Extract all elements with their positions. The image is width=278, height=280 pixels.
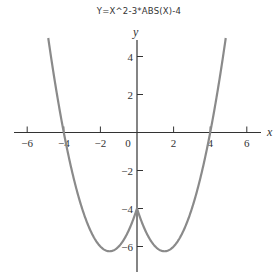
y-tick-label: −4	[121, 203, 133, 215]
x-axis-label: x	[266, 125, 273, 139]
y-tick-label: −2	[121, 165, 133, 177]
x-tick-label: 2	[171, 137, 177, 149]
axes	[14, 40, 261, 272]
y-tick-label: 2	[128, 89, 134, 101]
x-tick-label: 0	[125, 137, 131, 149]
x-tick-label: −2	[95, 137, 107, 149]
y-axis-label: y	[132, 25, 139, 39]
x-tick-label: 6	[244, 137, 250, 149]
x-tick-label: −6	[21, 137, 33, 149]
y-tick-label: 4	[128, 51, 134, 63]
plot-area: −6−4−2024642−2−4−6 x y	[0, 0, 278, 280]
